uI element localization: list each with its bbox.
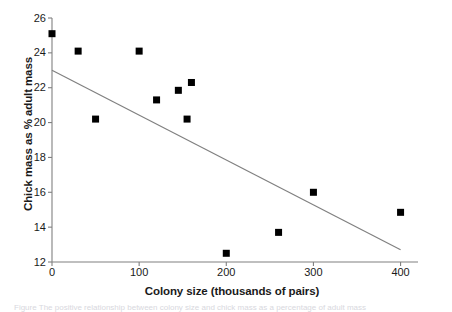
data-point-marker xyxy=(136,48,143,55)
data-point-marker xyxy=(310,189,317,196)
data-point-marker xyxy=(153,96,160,103)
regression-trendline xyxy=(52,70,401,250)
y-axis-tick-label: 12 xyxy=(20,257,46,268)
data-point-marker xyxy=(49,30,56,37)
scatter-plot-figure: Chick mass as % adult mass Colony size (… xyxy=(0,0,452,312)
y-axis-tick-labels: 1214161820222426 xyxy=(16,0,46,312)
trendline-group xyxy=(52,70,401,250)
x-axis-tick-labels: 0100200300400 xyxy=(0,267,452,283)
y-axis-tick-label: 14 xyxy=(20,222,46,233)
x-axis-tick-label: 100 xyxy=(119,267,159,278)
x-axis-title: Colony size (thousands of pairs) xyxy=(52,285,412,297)
data-point-marker xyxy=(275,229,282,236)
y-axis-tick-label: 20 xyxy=(20,117,46,128)
y-axis-tick-label: 24 xyxy=(20,47,46,58)
y-axis-tick-label: 16 xyxy=(20,187,46,198)
x-axis-tick-label: 200 xyxy=(206,267,246,278)
data-point-marker xyxy=(75,48,82,55)
data-point-marker xyxy=(184,116,191,123)
data-point-marker xyxy=(175,87,182,94)
data-point-marker xyxy=(223,250,230,257)
data-point-marker xyxy=(397,209,404,216)
y-axis-tick-label: 22 xyxy=(20,82,46,93)
y-axis-tick-label: 18 xyxy=(20,152,46,163)
x-axis-tick-label: 0 xyxy=(32,267,72,278)
x-axis-tick-label: 300 xyxy=(293,267,333,278)
x-axis-tick-label: 400 xyxy=(381,267,421,278)
figure-caption: Figure The positive relationship between… xyxy=(14,303,444,312)
data-point-marker xyxy=(92,116,99,123)
data-point-marker xyxy=(188,79,195,86)
y-axis-tick-label: 26 xyxy=(20,13,46,24)
axes-group xyxy=(48,18,418,266)
data-points-group xyxy=(49,30,405,257)
